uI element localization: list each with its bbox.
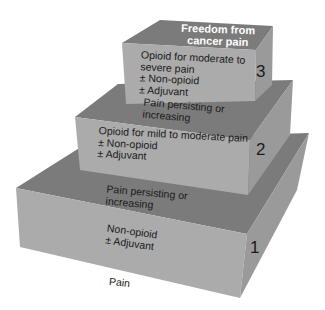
- step-2-number: 2: [256, 140, 265, 160]
- step-1-number: 1: [250, 238, 259, 258]
- goal-label: Freedom from cancer pain: [168, 21, 269, 48]
- step-3-text: Opioid for moderate to severe pain ± Non…: [139, 49, 246, 100]
- start-label: Pain: [108, 276, 130, 290]
- step-3-number: 3: [256, 62, 265, 82]
